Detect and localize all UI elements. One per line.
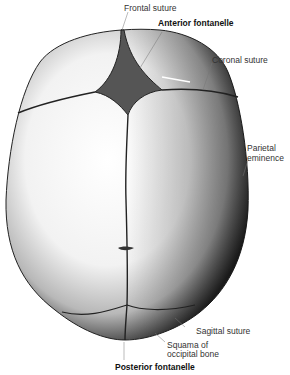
- label-anterior-fontanelle: Anterior fontanelle: [158, 19, 234, 28]
- label-parietal-line2: eminence: [247, 154, 284, 163]
- label-sagittal-suture: Sagittal suture: [196, 327, 250, 336]
- label-coronal-suture: Coronal suture: [212, 56, 268, 65]
- label-parietal-line1: Parietal: [247, 144, 276, 153]
- label-posterior-fontanelle: Posterior fontanelle: [115, 363, 195, 372]
- label-frontal-suture: Frontal suture: [124, 4, 176, 13]
- label-squama-line2: occipital bone: [167, 350, 219, 359]
